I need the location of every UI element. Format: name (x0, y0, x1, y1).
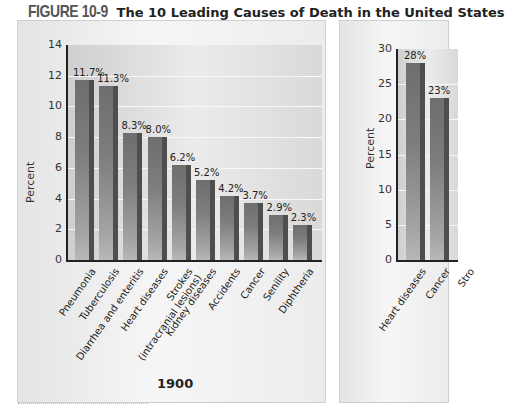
bar (75, 80, 94, 260)
bar (196, 180, 215, 260)
x-tick-label: Stro (456, 266, 477, 289)
y-tick-label: 2 (40, 222, 62, 235)
bar-value-label: 23% (428, 85, 450, 96)
chart-panel-1900: Percent 02468101214 11.7%11.3%8.3%8.0%6.… (17, 20, 326, 403)
chart-panel-recent: Percent 051015202530 28%23% Heart diseas… (339, 20, 449, 403)
y-tick-label: 6 (40, 161, 62, 174)
y-tick-label: 10 (370, 183, 392, 196)
bar-value-label: 28% (404, 50, 426, 61)
bar-value-label: 3.7% (242, 190, 267, 201)
plot-area: 28%23% (396, 49, 458, 262)
bar-value-label: 5.2% (194, 167, 219, 178)
bar (172, 165, 191, 260)
bar (220, 196, 239, 261)
y-tick-label: 4 (40, 192, 62, 205)
x-tick-label: Heart diseases (377, 266, 429, 333)
bar-value-label: 6.2% (170, 152, 195, 163)
figure-caption: The 10 Leading Causes of Death in the Un… (117, 5, 505, 20)
bar (430, 98, 449, 260)
bar-value-label: 8.3% (121, 120, 146, 131)
figure-title: FIGURE 10-9 The 10 Leading Causes of Dea… (28, 2, 505, 22)
bar (269, 215, 288, 260)
y-tick-label: 5 (370, 218, 392, 231)
y-tick-label: 14 (40, 38, 62, 51)
footer-credit-line (18, 403, 148, 407)
bar-value-label: 11.3% (97, 73, 129, 84)
chart-year-label: 1900 (157, 376, 193, 391)
y-tick-label: 12 (40, 69, 62, 82)
y-tick-label: 30 (370, 42, 392, 55)
bar-value-label: 4.2% (218, 183, 243, 194)
bar (123, 133, 142, 260)
bar-value-label: 2.3% (291, 212, 316, 223)
y-tick-label: 25 (370, 77, 392, 90)
y-axis-label: Percent (24, 162, 37, 203)
bar-value-label: 8.0% (146, 124, 171, 135)
y-tick-label: 10 (40, 99, 62, 112)
bar (293, 225, 312, 260)
plot-area: 11.7%11.3%8.3%8.0%6.2%5.2%4.2%3.7%2.9%2.… (66, 45, 322, 262)
y-tick-label: 20 (370, 112, 392, 125)
y-tick-label: 0 (40, 253, 62, 266)
y-tick-label: 8 (40, 130, 62, 143)
bar-value-label: 2.9% (267, 202, 292, 213)
bar (244, 203, 263, 260)
bar (406, 63, 425, 260)
y-tick-label: 0 (370, 253, 392, 266)
figure-number: FIGURE 10-9 (28, 2, 108, 22)
y-tick-label: 15 (370, 148, 392, 161)
bar (99, 86, 118, 260)
bar (148, 137, 167, 260)
